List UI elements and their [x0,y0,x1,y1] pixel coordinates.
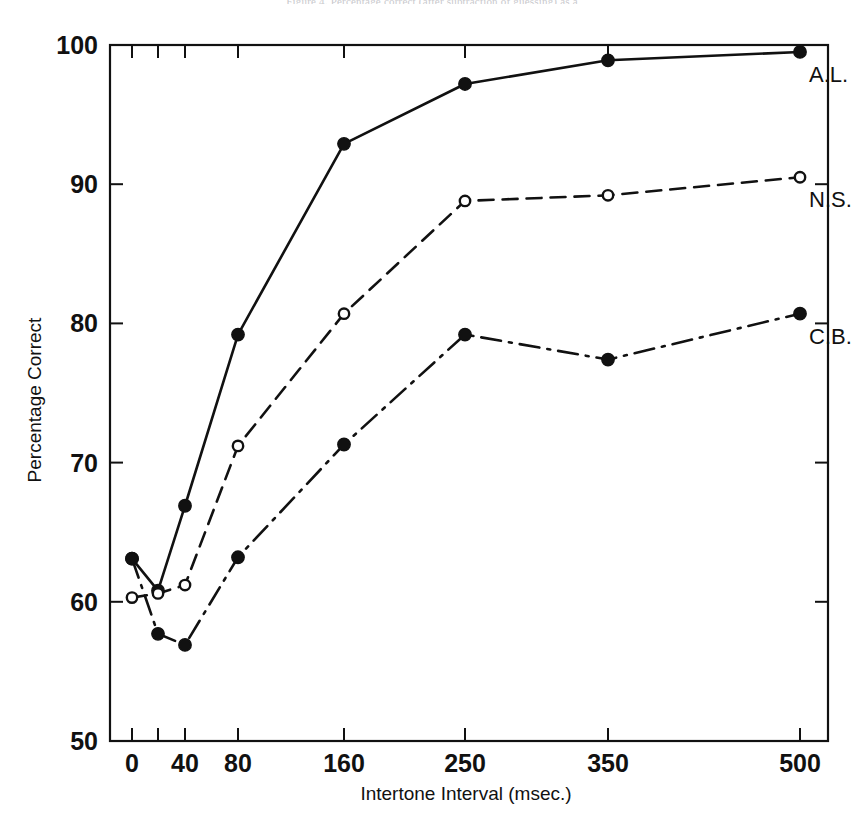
x-tick-label: 160 [323,749,365,777]
y-axis-ticks [110,45,828,741]
series-label-al: A.L. [809,62,848,87]
data-point [152,628,164,640]
y-tick-label: 70 [70,449,98,477]
data-point [459,78,471,90]
y-tick-label: 50 [70,727,98,755]
data-point [602,353,614,365]
y-tick-label: 60 [70,588,98,616]
data-point [180,580,190,590]
x-axis-title: Intertone Interval (msec.) [360,783,571,804]
x-tick-label: 40 [171,749,199,777]
line-chart: 04080160250350500 5060708090100 A.L.N.S.… [0,0,864,833]
data-point [794,46,806,58]
data-point [127,592,137,602]
data-point [795,172,805,182]
y-tick-label: 100 [56,31,98,59]
data-point [602,54,614,66]
data-point [233,441,243,451]
plot-frame [110,45,828,741]
y-axis-tick-labels: 5060708090100 [56,31,98,755]
data-point [338,438,350,450]
data-point [339,308,349,318]
data-point [179,639,191,651]
data-point [126,552,138,564]
y-tick-label: 80 [70,309,98,337]
x-tick-label: 250 [444,749,486,777]
series-line-al [132,52,800,591]
x-tick-label: 0 [125,749,139,777]
data-point [794,307,806,319]
x-axis-tick-labels: 04080160250350500 [125,749,821,777]
data-point [459,328,471,340]
series-line-ns [132,177,800,597]
x-axis-ticks [132,45,800,741]
series-markers [126,46,806,651]
data-point [460,196,470,206]
data-point [232,551,244,563]
figure-container: Figure 4. Percentage correct (after subt… [0,0,864,833]
series-labels: A.L.N.S.C.B. [809,62,852,349]
data-point [153,588,163,598]
series-label-cb: C.B. [809,324,852,349]
data-point [232,328,244,340]
series-line-cb [132,314,800,645]
data-point [179,500,191,512]
data-point [338,138,350,150]
series-label-ns: N.S. [809,187,852,212]
x-tick-label: 500 [779,749,821,777]
data-point [603,190,613,200]
x-tick-label: 80 [224,749,252,777]
x-tick-label: 350 [587,749,629,777]
y-tick-label: 90 [70,170,98,198]
y-axis-title: Percentage Correct [24,317,45,482]
